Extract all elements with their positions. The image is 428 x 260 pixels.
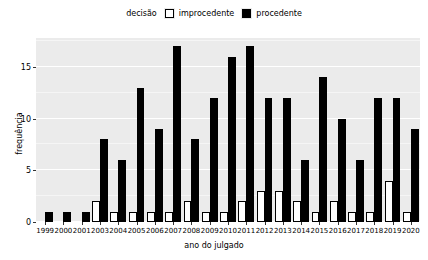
bar-group-2010 (219, 38, 237, 222)
bar-improcedente-2014 (293, 201, 301, 222)
x-tick-2013 (283, 222, 284, 225)
bar-procedente-2001 (82, 212, 90, 222)
y-tick-label-5: 5 (26, 166, 31, 175)
x-tick-2001 (82, 222, 83, 225)
x-tick-label-2000: 2000 (55, 227, 73, 235)
bar-group-2003 (91, 38, 109, 222)
x-tick-label-2015: 2015 (311, 227, 329, 235)
x-tick-label-2019: 2019 (384, 227, 402, 235)
x-tick-2016 (338, 222, 339, 225)
bar-improcedente-2017 (348, 212, 356, 222)
x-axis: 1999200020012003200420052006200720082009… (36, 222, 420, 242)
x-tick-2003 (100, 222, 101, 225)
bar-group-2007 (164, 38, 182, 222)
x-tick-label-2006: 2006 (146, 227, 164, 235)
x-tick-2005 (137, 222, 138, 225)
bar-improcedente-2009 (202, 212, 210, 222)
bar-procedente-2007 (173, 46, 181, 222)
legend-title: decisão (126, 9, 157, 18)
y-tick-label-0: 0 (26, 218, 31, 227)
x-tick-label-2009: 2009 (201, 227, 219, 235)
bar-procedente-2017 (356, 160, 364, 222)
x-tick-label-2013: 2013 (274, 227, 292, 235)
bar-improcedente-2007 (165, 212, 173, 222)
bar-improcedente-2008 (184, 201, 192, 222)
bar-group-2017 (347, 38, 365, 222)
legend-entry-procedente: procedente (241, 8, 302, 19)
plot-panel (36, 38, 420, 222)
x-tick-label-2017: 2017 (347, 227, 365, 235)
bar-procedente-2019 (393, 98, 401, 222)
bar-group-2016 (329, 38, 347, 222)
x-tick-2014 (301, 222, 302, 225)
x-tick-1999 (45, 222, 46, 225)
x-tick-label-2014: 2014 (292, 227, 310, 235)
x-tick-2007 (173, 222, 174, 225)
y-tick-label-15: 15 (21, 62, 31, 71)
legend-key-procedente (241, 8, 252, 19)
bar-group-2012 (255, 38, 273, 222)
bar-procedente-2000 (63, 212, 71, 222)
bar-improcedente-2006 (147, 212, 155, 222)
bar-procedente-2015 (319, 77, 327, 222)
bar-group-2011 (237, 38, 255, 222)
bar-group-2009 (201, 38, 219, 222)
x-tick-label-2020: 2020 (402, 227, 420, 235)
legend-swatch-white (165, 9, 174, 18)
legend-entry-improcedente: improcedente (164, 8, 235, 19)
bar-procedente-2005 (137, 88, 145, 222)
x-tick-2004 (118, 222, 119, 225)
x-tick-2006 (155, 222, 156, 225)
x-tick-2017 (356, 222, 357, 225)
bar-improcedente-2018 (366, 212, 374, 222)
x-tick-label-2008: 2008 (183, 227, 201, 235)
x-tick-label-2016: 2016 (329, 227, 347, 235)
bar-improcedente-2016 (330, 201, 338, 222)
x-tick-label-2003: 2003 (91, 227, 109, 235)
bar-procedente-2020 (411, 129, 419, 222)
bar-procedente-1999 (45, 212, 53, 222)
y-tick-10 (33, 119, 36, 120)
x-tick-label-2001: 2001 (73, 227, 91, 235)
x-tick-label-2018: 2018 (365, 227, 383, 235)
bar-improcedente-2015 (312, 212, 320, 222)
bar-procedente-2004 (118, 160, 126, 222)
bar-group-2013 (274, 38, 292, 222)
legend-swatch-black (242, 9, 251, 18)
x-axis-label: ano do julgado (0, 241, 428, 250)
bar-chart-figure: decisão improcedente procedente frequênc… (0, 0, 428, 260)
bar-group-2019 (383, 38, 401, 222)
x-tick-2008 (191, 222, 192, 225)
bar-improcedente-2020 (403, 212, 411, 222)
x-tick-label-2010: 2010 (219, 227, 237, 235)
x-tick-label-2007: 2007 (164, 227, 182, 235)
x-tick-2018 (374, 222, 375, 225)
bar-group-2004 (109, 38, 127, 222)
y-tick-label-10: 10 (21, 114, 31, 123)
bar-group-2006 (146, 38, 164, 222)
x-tick-label-2004: 2004 (109, 227, 127, 235)
x-tick-2010 (228, 222, 229, 225)
x-tick-label-2012: 2012 (256, 227, 274, 235)
bar-improcedente-2003 (92, 201, 100, 222)
x-tick-label-2011: 2011 (237, 227, 255, 235)
chart-legend: decisão improcedente procedente (0, 4, 428, 22)
bar-group-2000 (54, 38, 72, 222)
y-axis: frequência 051015 (0, 38, 36, 222)
bar-procedente-2008 (191, 139, 199, 222)
bar-group-2001 (73, 38, 91, 222)
y-tick-15 (33, 67, 36, 68)
bar-improcedente-2019 (385, 181, 393, 222)
legend-label-improcedente: improcedente (179, 9, 235, 18)
bar-improcedente-2012 (257, 191, 265, 222)
legend-label-procedente: procedente (256, 9, 302, 18)
y-tick-5 (33, 170, 36, 171)
bar-procedente-2011 (246, 46, 254, 222)
bar-group-1999 (36, 38, 54, 222)
legend-key-improcedente (164, 8, 175, 19)
bar-group-2005 (127, 38, 145, 222)
bar-improcedente-2010 (220, 212, 228, 222)
bar-procedente-2010 (228, 57, 236, 222)
bar-procedente-2013 (283, 98, 291, 222)
x-tick-label-2005: 2005 (128, 227, 146, 235)
